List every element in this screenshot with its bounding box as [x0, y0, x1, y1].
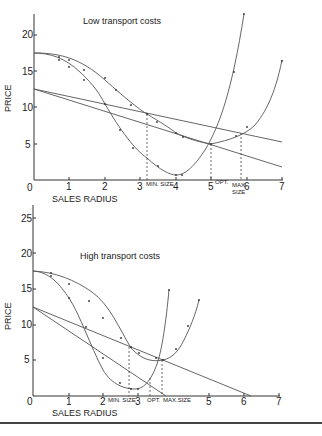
bottom-x-label: SALES RADIUS [52, 408, 118, 418]
bottom-line-b [33, 307, 166, 396]
top-xtick-3: 3 [137, 181, 143, 192]
top-ytick-15: 15 [22, 66, 34, 77]
top-max-label: MAX. [232, 182, 247, 188]
bottom-y-label: PRICE [3, 302, 13, 330]
bottom-min-size-label: MIN. SIZE [108, 397, 136, 403]
top-xtick-0: 0 [27, 182, 33, 193]
bottom-ytick-25: 25 [21, 213, 33, 224]
bottom-xtick-0: 0 [27, 396, 33, 407]
bottom-steep-curve [33, 271, 169, 389]
bottom-opt-label: OPT. [147, 397, 161, 403]
bottom-xtick-6: 6 [241, 396, 247, 407]
top-xtick-1: 1 [66, 181, 72, 192]
bottom-title: High transport costs [80, 251, 161, 261]
top-ytick-20: 20 [22, 29, 34, 40]
top-xtick-5: 5 [208, 181, 214, 192]
bottom-max-size-label: MAX.SIZE [163, 397, 191, 403]
bottom-ytick-5: 5 [24, 354, 30, 365]
top-size-label: SIZE [232, 189, 245, 195]
top-line-a [34, 89, 282, 142]
top-gentle-curve [34, 53, 282, 144]
top-data-points [58, 13, 283, 176]
bottom-xtick-3: 3 [135, 396, 141, 407]
bottom-ytick-10: 10 [21, 319, 33, 330]
bottom-line-a [33, 307, 251, 396]
bottom-xtick-1: 1 [66, 396, 72, 407]
bottom-ytick-20: 20 [21, 248, 33, 259]
top-xtick-4: 4 [173, 181, 179, 192]
top-steep-curve [34, 14, 244, 175]
top-chart: 20 15 10 5 0 1 2 3 4 5 6 7 MIN. SIZE OPT… [3, 13, 285, 204]
bottom-chart: 25 20 15 10 5 0 1 2 3 5 6 7 MIN. SIZE OP… [3, 205, 282, 418]
bottom-data-points [50, 272, 200, 390]
top-x-label: SALES RADIUS [52, 194, 118, 204]
bottom-xtick-2: 2 [100, 396, 106, 407]
top-ytick-10: 10 [22, 102, 34, 113]
top-opt-label: OPT. [215, 179, 229, 185]
top-min-size-label: MIN. SIZE [146, 181, 174, 187]
figure: 20 15 10 5 0 1 2 3 4 5 6 7 MIN. SIZE OPT… [0, 0, 322, 436]
top-ytick-5: 5 [25, 139, 31, 150]
bottom-ytick-15: 15 [21, 283, 33, 294]
top-y-label: PRICE [3, 84, 13, 112]
top-xtick-7: 7 [279, 181, 285, 192]
bottom-xtick-7: 7 [276, 396, 282, 407]
top-title: Low transport costs [83, 16, 162, 26]
top-line-b [34, 89, 282, 167]
bottom-xtick-5: 5 [206, 396, 212, 407]
top-xtick-2: 2 [102, 181, 108, 192]
